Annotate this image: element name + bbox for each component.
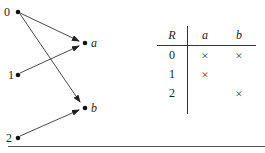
- node-a-dot: [83, 41, 88, 46]
- row-header: 2: [157, 84, 188, 114]
- col-header-a: a: [188, 26, 223, 46]
- relation-table: R a b 0 × × 1 × 2 ×: [157, 26, 256, 114]
- row-header: 0: [157, 46, 188, 66]
- table-row: 1 ×: [157, 65, 256, 84]
- cell-empty: [222, 65, 256, 84]
- node-0-label: 0: [4, 6, 10, 18]
- table-row: 2 ×: [157, 84, 256, 114]
- table-row: 0 × ×: [157, 46, 256, 66]
- node-a-label: a: [91, 37, 97, 49]
- node-1-label: 1: [8, 69, 14, 81]
- cell-cross: ×: [222, 84, 256, 114]
- node-b-dot: [83, 106, 88, 111]
- row-header: 1: [157, 65, 188, 84]
- node-2-label: 2: [6, 132, 12, 144]
- cell-cross: ×: [188, 46, 223, 66]
- bottom-rule: [8, 146, 265, 147]
- table-corner: R: [157, 26, 188, 46]
- edge-2-b: [20, 110, 79, 136]
- cell-cross: ×: [222, 46, 256, 66]
- node-1-dot: [16, 73, 21, 78]
- cell-empty: [188, 84, 223, 114]
- edge-1-a: [20, 46, 79, 73]
- node-b-label: b: [91, 102, 97, 114]
- node-2-dot: [16, 136, 21, 141]
- cell-cross: ×: [188, 65, 223, 84]
- col-header-b: b: [222, 26, 256, 46]
- node-0-dot: [16, 10, 21, 15]
